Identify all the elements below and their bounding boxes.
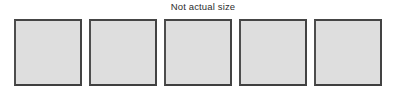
- color-swatch: [89, 19, 157, 86]
- swatch-row: [14, 19, 382, 86]
- not-actual-size-figure: Not actual size: [0, 0, 406, 93]
- color-swatch: [164, 19, 232, 86]
- figure-caption: Not actual size: [0, 1, 406, 13]
- color-swatch: [14, 19, 82, 86]
- color-swatch: [314, 19, 382, 86]
- color-swatch: [239, 19, 307, 86]
